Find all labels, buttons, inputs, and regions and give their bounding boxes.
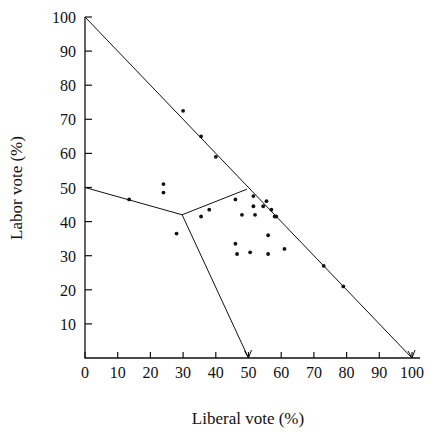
data-point	[234, 198, 238, 202]
scatter-chart: 0102030405060708090100102030405060708090…	[0, 0, 446, 432]
x-tick-label: 90	[371, 364, 387, 381]
boundary-lines-group	[85, 17, 415, 358]
boundary-labor-liberal-divider	[85, 188, 247, 215]
data-point	[265, 199, 269, 203]
data-point	[175, 232, 179, 236]
data-point	[269, 208, 273, 212]
x-tick-label: 40	[208, 364, 224, 381]
data-point	[234, 242, 238, 246]
y-axis-title: Labor vote (%)	[7, 136, 26, 240]
y-tick-label: 90	[60, 43, 76, 60]
y-tick-label: 80	[60, 77, 76, 94]
data-points-group	[127, 109, 345, 288]
data-point	[252, 204, 256, 208]
plot-area: 0102030405060708090100102030405060708090…	[0, 0, 446, 432]
y-tick-label: 50	[60, 180, 76, 197]
y-tick-label: 30	[60, 248, 76, 265]
y-tick-label: 10	[60, 316, 76, 333]
data-point	[322, 264, 326, 268]
data-point	[283, 247, 287, 251]
x-tick-label: 70	[306, 364, 322, 381]
data-point	[248, 250, 252, 254]
x-tick-label: 10	[110, 364, 126, 381]
boundary-liberal-other-divider	[182, 215, 248, 358]
data-point	[253, 213, 257, 217]
data-point	[214, 155, 218, 159]
x-tick-label: 80	[339, 364, 355, 381]
x-tick-label: 60	[273, 364, 289, 381]
y-tick-label: 100	[52, 9, 76, 26]
data-point	[199, 134, 203, 138]
data-point	[235, 252, 239, 256]
data-point	[252, 194, 256, 198]
data-point	[162, 191, 166, 195]
data-point	[162, 182, 166, 186]
data-point	[261, 204, 265, 208]
data-point	[207, 208, 211, 212]
x-tick-label: 30	[175, 364, 191, 381]
tick-labels-group: 0102030405060708090100102030405060708090…	[52, 9, 424, 381]
data-point	[181, 109, 185, 113]
y-tick-label: 40	[60, 214, 76, 231]
data-point	[127, 198, 131, 202]
x-tick-label: 50	[241, 364, 257, 381]
x-tick-label: 0	[81, 364, 89, 381]
data-point	[341, 284, 345, 288]
x-tick-label: 100	[400, 364, 424, 381]
data-point	[266, 252, 270, 256]
data-point	[199, 215, 203, 219]
y-tick-label: 60	[60, 145, 76, 162]
boundary-triangle-hypotenuse	[85, 17, 412, 358]
data-point	[273, 215, 277, 219]
y-tick-label: 70	[60, 111, 76, 128]
x-axis-title: Liberal vote (%)	[192, 409, 304, 428]
y-tick-label: 20	[60, 282, 76, 299]
x-tick-label: 20	[142, 364, 158, 381]
data-point	[240, 213, 244, 217]
axis-lines	[85, 17, 420, 358]
data-point	[266, 233, 270, 237]
axes-group	[85, 17, 420, 358]
